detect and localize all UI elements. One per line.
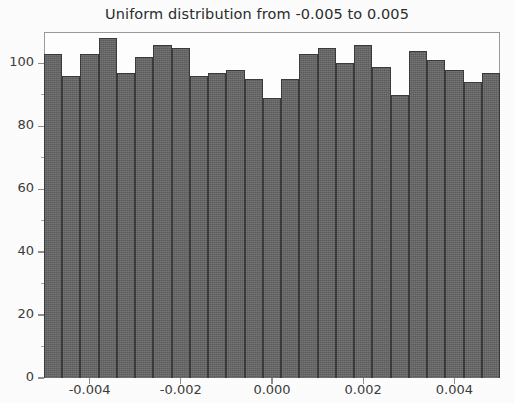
y-tick-minor bbox=[41, 346, 44, 347]
histogram-bar bbox=[153, 45, 171, 378]
histogram-bar bbox=[208, 73, 226, 378]
histogram-bar bbox=[190, 76, 208, 378]
y-tick-mark bbox=[38, 377, 44, 378]
histogram-bar bbox=[372, 67, 390, 378]
histogram-bar bbox=[172, 48, 190, 378]
histogram-bar bbox=[482, 73, 500, 378]
histogram-bar bbox=[44, 54, 62, 378]
histogram-bar bbox=[135, 57, 153, 378]
histogram-bar bbox=[80, 54, 98, 378]
histogram-bar bbox=[445, 70, 463, 378]
y-tick-minor bbox=[41, 157, 44, 158]
y-tick-label: 60 bbox=[0, 180, 34, 195]
y-tick-label: 40 bbox=[0, 243, 34, 258]
y-tick-label: 80 bbox=[0, 117, 34, 132]
y-tick-mark bbox=[38, 314, 44, 315]
histogram-figure: Uniform distribution from -0.005 to 0.00… bbox=[0, 0, 514, 403]
histogram-bar bbox=[263, 98, 281, 378]
x-tick-label: -0.004 bbox=[50, 382, 130, 397]
histogram-bar bbox=[427, 60, 445, 378]
y-tick-minor bbox=[41, 94, 44, 95]
histogram-bar bbox=[226, 70, 244, 378]
chart-title: Uniform distribution from -0.005 to 0.00… bbox=[0, 6, 514, 22]
y-tick-label: 100 bbox=[0, 54, 34, 69]
histogram-bar bbox=[336, 63, 354, 378]
y-tick-label: 20 bbox=[0, 306, 34, 321]
y-tick-mark bbox=[38, 189, 44, 190]
y-tick-minor bbox=[41, 220, 44, 221]
histogram-bar bbox=[99, 38, 117, 378]
y-tick-mark bbox=[38, 251, 44, 252]
histogram-bar bbox=[245, 79, 263, 378]
histogram-bar bbox=[391, 95, 409, 378]
x-tick-label: 0.004 bbox=[414, 382, 494, 397]
x-tick-label: 0.000 bbox=[232, 382, 312, 397]
y-tick-minor bbox=[41, 283, 44, 284]
histogram-bar bbox=[464, 82, 482, 378]
x-tick-label: 0.002 bbox=[323, 382, 403, 397]
histogram-bar bbox=[62, 76, 80, 378]
y-tick-label: 0 bbox=[0, 369, 34, 384]
histogram-bar bbox=[281, 79, 299, 378]
histogram-bar bbox=[409, 51, 427, 378]
y-tick-mark bbox=[38, 126, 44, 127]
x-tick-label: -0.002 bbox=[141, 382, 221, 397]
histogram-bar bbox=[354, 45, 372, 378]
histogram-bars bbox=[44, 32, 500, 378]
histogram-bar bbox=[117, 73, 135, 378]
histogram-bar bbox=[318, 48, 336, 378]
histogram-bar bbox=[299, 54, 317, 378]
y-tick-mark bbox=[38, 63, 44, 64]
